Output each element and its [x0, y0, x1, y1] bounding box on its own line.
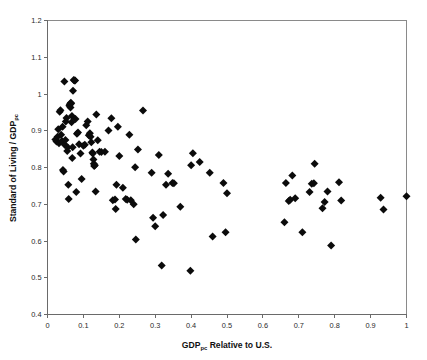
x-tick-label: 0.1 — [78, 321, 88, 330]
svg-text:GDPpc Relative to U.S.: GDPpc Relative to U.S. — [182, 340, 272, 351]
x-tick-label: 0.6 — [258, 321, 268, 330]
scatter-point — [92, 187, 100, 195]
y-tick-label: 1.1 — [31, 53, 41, 62]
x-tick-label: 0.8 — [330, 321, 340, 330]
chart-figure: 00.10.20.30.40.50.60.70.80.91 0.40.50.60… — [0, 0, 427, 360]
scatter-point — [158, 262, 166, 270]
scatter-point — [139, 107, 147, 115]
scatter-point — [223, 189, 231, 197]
scatter-point — [298, 228, 306, 236]
scatter-point — [206, 169, 214, 177]
scatter-point — [149, 214, 157, 222]
y-tick-label: 0.4 — [31, 310, 41, 319]
x-axis-tick-labels: 00.10.20.30.40.50.60.70.80.91 — [45, 321, 408, 330]
scatter-point — [282, 179, 290, 187]
scatter-point — [335, 178, 343, 186]
scatter-point — [196, 158, 204, 166]
svg-text:Standard of Living / GDPpc: Standard of Living / GDPpc — [8, 113, 19, 222]
scatter-point — [107, 114, 115, 122]
x-tick-label: 0.9 — [365, 321, 375, 330]
plot-axes — [48, 21, 407, 315]
x-axis-title: GDPpc Relative to U.S. — [182, 340, 272, 351]
scatter-point — [148, 169, 156, 177]
y-tick-label: 0.7 — [31, 200, 41, 209]
scatter-point — [94, 136, 102, 144]
x-tick-label: 0.2 — [114, 321, 124, 330]
scatter-point — [151, 222, 159, 230]
y-tick-label: 0.6 — [31, 237, 41, 246]
scatter-point — [164, 170, 172, 178]
scatter-point — [125, 131, 133, 139]
scatter-point — [134, 145, 142, 153]
scatter-point — [132, 236, 140, 244]
scatter-point — [78, 175, 86, 183]
scatter-point — [64, 181, 72, 189]
y-tick-label: 0.9 — [31, 126, 41, 135]
scatter-point — [69, 87, 77, 95]
scatter-point — [77, 150, 85, 158]
scatter-point — [380, 205, 388, 213]
scatter-point — [337, 197, 345, 205]
y-tick-label: 0.5 — [31, 273, 41, 282]
scatter-point — [327, 241, 335, 249]
scatter-point — [155, 151, 163, 159]
scatter-point — [219, 179, 227, 187]
scatter-markers — [51, 76, 410, 275]
scatter-point — [60, 78, 68, 86]
x-tick-label: 0.3 — [150, 321, 160, 330]
scatter-point — [115, 152, 123, 160]
scatter-point — [209, 233, 217, 241]
scatter-point — [321, 198, 329, 206]
scatter-point — [280, 218, 288, 226]
scatter-point — [65, 195, 73, 203]
scatter-point — [176, 203, 184, 211]
x-tick-label: 0.5 — [222, 321, 232, 330]
scatter-point — [131, 163, 139, 171]
y-tick-label: 1.2 — [31, 16, 41, 25]
y-tick-label: 1 — [37, 90, 41, 99]
scatter-point — [159, 211, 167, 219]
x-tick-label: 0.7 — [294, 321, 304, 330]
scatter-plot: 00.10.20.30.40.50.60.70.80.91 0.40.50.60… — [0, 0, 427, 360]
scatter-point — [186, 267, 194, 275]
scatter-point — [222, 228, 230, 236]
scatter-point — [187, 161, 195, 169]
scatter-point — [112, 205, 120, 213]
scatter-point — [92, 111, 100, 119]
scatter-point — [162, 181, 170, 189]
scatter-point — [114, 123, 122, 131]
scatter-point — [403, 192, 411, 200]
x-tick-label: 0 — [45, 321, 49, 330]
y-tick-label: 0.8 — [31, 163, 41, 172]
scatter-point — [318, 204, 326, 212]
scatter-point — [306, 188, 314, 196]
y-axis-title: Standard of Living / GDPpc — [8, 113, 19, 222]
scatter-point — [324, 187, 332, 195]
scatter-point — [311, 160, 319, 168]
plot-frame — [48, 21, 407, 315]
y-axis-tick-labels: 0.40.50.60.70.80.911.11.2 — [31, 16, 41, 319]
x-tick-label: 1 — [404, 321, 408, 330]
scatter-point — [105, 126, 113, 134]
scatter-point — [189, 149, 197, 157]
scatter-point — [72, 188, 80, 196]
x-tick-label: 0.4 — [186, 321, 196, 330]
scatter-point — [288, 172, 296, 180]
scatter-point — [377, 194, 385, 202]
scatter-point — [68, 154, 76, 162]
